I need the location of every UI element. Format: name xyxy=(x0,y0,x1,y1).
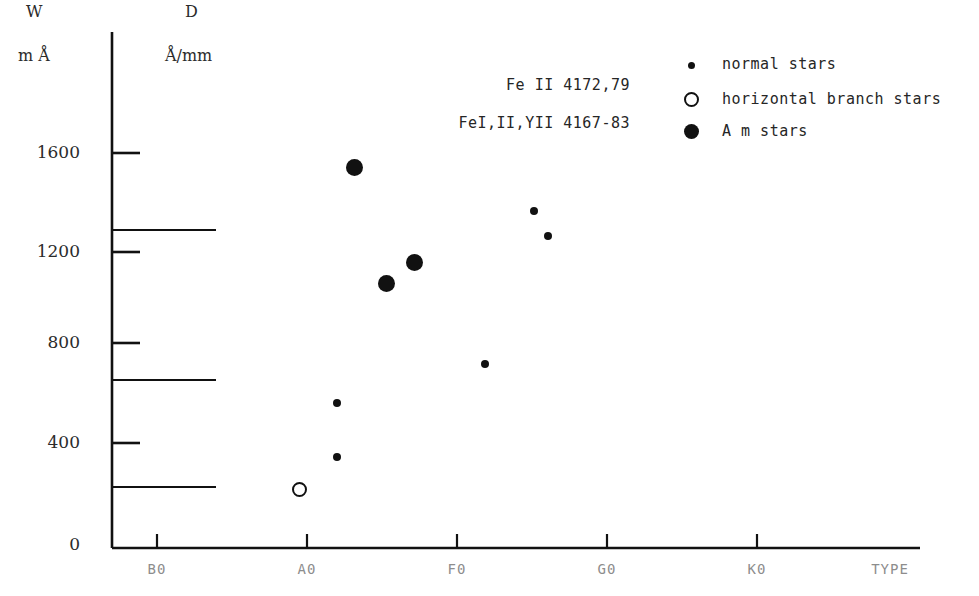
x-axis-title: TYPE xyxy=(855,562,925,576)
data-point-normal-star xyxy=(544,232,552,240)
x-tick-label-k0: K0 xyxy=(732,562,782,576)
legend-marker-normal-star xyxy=(688,62,695,69)
data-point-horizontal-branch-star xyxy=(292,482,307,497)
data-point-normal-star xyxy=(481,360,489,368)
legend-marker-am-star xyxy=(684,124,699,139)
y-tick-label-1200: 1200 xyxy=(10,243,80,260)
chart-canvas: W m Å D Å/mm 1600 1200 800 400 0 B0 A0 F… xyxy=(0,0,979,596)
legend-label-horizontal-branch-stars: horizontal branch stars xyxy=(722,92,941,107)
legend-marker-horizontal-branch-star xyxy=(684,92,699,107)
y-tick-label-400: 400 xyxy=(10,434,80,451)
legend-label-am-stars: A m stars xyxy=(722,124,808,139)
x-tick-label-f0: F0 xyxy=(432,562,482,576)
data-point-normal-star xyxy=(333,453,341,461)
data-point-normal-star xyxy=(333,399,341,407)
x-tick-label-b0: B0 xyxy=(132,562,182,576)
w-axis-unit: m Å xyxy=(18,48,50,64)
y-tick-label-0: 0 xyxy=(10,536,80,553)
data-point-am-star xyxy=(378,275,395,292)
y-tick-label-1600: 1600 xyxy=(10,144,80,161)
x-tick-label-g0: G0 xyxy=(582,562,632,576)
legend-label-normal-stars: normal stars xyxy=(722,57,836,72)
data-point-am-star xyxy=(406,254,423,271)
annotation-line-1: Fe II 4172,79 xyxy=(380,78,630,93)
w-axis-header: W xyxy=(26,4,42,20)
x-tick-label-a0: A0 xyxy=(282,562,332,576)
y-tick-label-800: 800 xyxy=(10,334,80,351)
data-point-normal-star xyxy=(530,207,538,215)
d-axis-header: D xyxy=(185,4,198,20)
annotation-line-2: FeI,II,YII 4167-83 xyxy=(380,116,630,131)
d-axis-unit: Å/mm xyxy=(165,48,212,64)
data-point-am-star xyxy=(346,159,363,176)
